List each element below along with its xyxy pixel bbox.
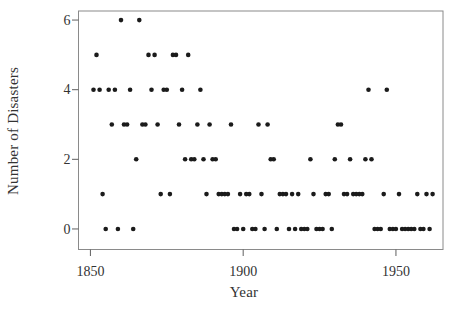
data-point: [174, 53, 179, 58]
data-point: [177, 122, 182, 127]
y-axis-ticks: 0246: [64, 13, 79, 237]
disasters-scatter-figure: 185019001950 0246 Year Number of Disaste…: [0, 0, 469, 311]
data-point: [275, 227, 280, 232]
scatter-plot: 185019001950 0246 Year Number of Disaste…: [0, 0, 469, 311]
data-point: [207, 122, 212, 127]
data-point: [256, 122, 261, 127]
data-point: [345, 192, 350, 197]
data-point: [308, 157, 313, 162]
data-point: [168, 192, 173, 197]
data-point: [415, 192, 420, 197]
data-point: [183, 157, 188, 162]
data-point: [110, 122, 115, 127]
plot-frame: [79, 11, 444, 250]
data-point: [128, 87, 133, 92]
data-point: [235, 227, 240, 232]
data-point: [143, 122, 148, 127]
data-point: [103, 227, 108, 232]
data-point: [125, 122, 130, 127]
y-axis-title: Number of Disasters: [5, 67, 21, 195]
data-point: [320, 227, 325, 232]
data-point: [247, 192, 252, 197]
data-point: [271, 157, 276, 162]
x-tick-label: 1950: [382, 264, 410, 279]
data-point: [366, 87, 371, 92]
data-point: [146, 53, 151, 58]
data-point: [369, 157, 374, 162]
data-point: [229, 122, 234, 127]
x-tick-label: 1900: [229, 264, 257, 279]
x-tick-label: 1850: [76, 264, 104, 279]
data-point: [296, 192, 301, 197]
data-point: [241, 227, 246, 232]
data-point: [397, 192, 402, 197]
data-point: [293, 227, 298, 232]
data-point: [113, 87, 118, 92]
data-point: [213, 157, 218, 162]
data-point: [424, 192, 429, 197]
x-axis-ticks: 185019001950: [76, 250, 410, 279]
data-point: [253, 227, 258, 232]
data-point: [165, 87, 170, 92]
y-tick-label: 2: [64, 152, 71, 167]
data-point: [186, 53, 191, 58]
y-tick-label: 4: [64, 82, 71, 97]
data-point: [311, 192, 316, 197]
data-point: [155, 122, 160, 127]
data-point: [381, 192, 386, 197]
data-point: [238, 192, 243, 197]
data-point: [378, 227, 383, 232]
data-point: [287, 227, 292, 232]
data-point: [198, 87, 203, 92]
data-point: [385, 87, 390, 92]
data-point: [412, 227, 417, 232]
data-point: [94, 53, 99, 58]
data-point: [100, 192, 105, 197]
data-point: [333, 157, 338, 162]
data-point: [195, 122, 200, 127]
data-point: [262, 227, 267, 232]
data-point: [305, 227, 310, 232]
data-point: [360, 192, 365, 197]
data-point: [204, 192, 209, 197]
data-point: [284, 192, 289, 197]
data-points: [91, 18, 435, 232]
data-point: [290, 192, 295, 197]
x-axis-title: Year: [230, 284, 258, 300]
y-tick-label: 0: [64, 222, 71, 237]
data-point: [149, 87, 154, 92]
data-point: [330, 227, 335, 232]
data-point: [106, 87, 111, 92]
data-point: [265, 122, 270, 127]
data-point: [137, 18, 142, 23]
data-point: [131, 227, 136, 232]
data-point: [91, 87, 96, 92]
data-point: [152, 53, 157, 58]
data-point: [134, 157, 139, 162]
data-point: [119, 18, 124, 23]
data-point: [394, 227, 399, 232]
data-point: [201, 157, 206, 162]
data-point: [158, 192, 163, 197]
data-point: [430, 192, 435, 197]
data-point: [348, 157, 353, 162]
data-point: [180, 87, 185, 92]
data-point: [421, 227, 426, 232]
data-point: [97, 87, 102, 92]
data-point: [116, 227, 121, 232]
y-tick-label: 6: [64, 13, 71, 28]
data-point: [427, 227, 432, 232]
data-point: [363, 157, 368, 162]
data-point: [259, 192, 264, 197]
data-point: [226, 192, 231, 197]
data-point: [192, 157, 197, 162]
data-point: [339, 122, 344, 127]
data-point: [326, 192, 331, 197]
